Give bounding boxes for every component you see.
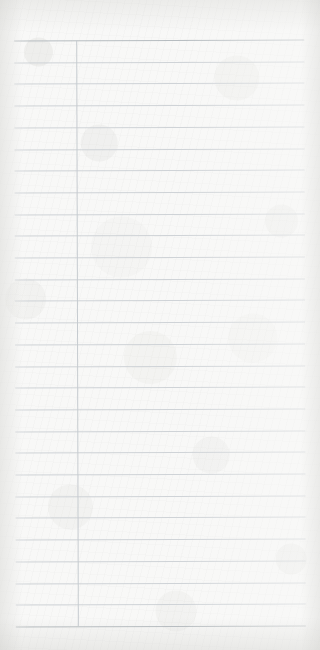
ruled-line xyxy=(15,191,305,193)
ruled-line xyxy=(15,170,305,172)
ruled-line xyxy=(15,213,305,215)
ruled-line xyxy=(15,300,305,302)
ruled-line xyxy=(14,83,304,85)
ruled-line xyxy=(15,408,305,410)
ruled-line xyxy=(16,626,306,628)
ruled-line xyxy=(15,430,305,432)
ruled-line xyxy=(15,452,305,454)
ruled-line xyxy=(15,387,305,389)
ruled-line xyxy=(14,40,304,42)
ruled-line xyxy=(15,257,305,259)
ruled-line xyxy=(16,560,306,562)
scanned-page xyxy=(0,0,320,650)
ruled-line xyxy=(16,539,306,541)
ruled-line xyxy=(15,278,305,280)
ruled-line xyxy=(16,604,306,606)
ruled-line xyxy=(15,148,305,150)
ruling-layer xyxy=(0,0,320,650)
ruled-line xyxy=(15,322,305,324)
ruled-line xyxy=(15,343,305,345)
ruled-line xyxy=(14,61,304,63)
ruled-line xyxy=(15,365,305,367)
ruled-line xyxy=(16,517,306,519)
ruled-line xyxy=(14,126,304,128)
ruled-line xyxy=(15,235,305,237)
ruled-line xyxy=(14,105,304,107)
ruled-line xyxy=(16,582,306,584)
ruled-line xyxy=(15,474,305,476)
ruled-line xyxy=(15,495,305,497)
